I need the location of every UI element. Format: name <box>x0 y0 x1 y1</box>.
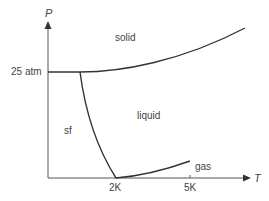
y-axis-arrow-icon <box>45 21 52 29</box>
y-tick-25atm: 25 atm <box>11 67 42 77</box>
phase-diagram <box>0 0 269 201</box>
melting-curve <box>48 28 245 72</box>
region-liquid: liquid <box>137 111 160 121</box>
y-axis-label: P <box>45 8 52 19</box>
vaporization-curve <box>116 161 190 178</box>
x-axis-label: T <box>254 173 261 184</box>
region-gas: gas <box>195 162 211 172</box>
region-superfluid: sf <box>64 126 72 136</box>
x-tick-2k: 2K <box>109 183 121 193</box>
x-axis-arrow-icon <box>243 175 251 182</box>
x-tick-5k: 5K <box>184 183 196 193</box>
region-solid: solid <box>115 33 136 43</box>
lambda-line <box>80 72 116 178</box>
